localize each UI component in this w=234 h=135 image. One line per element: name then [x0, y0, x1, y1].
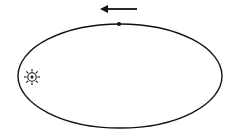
- orbit-diagram: Elliptical orbit of a planet around the …: [0, 0, 234, 135]
- sun-icon: [24, 69, 40, 85]
- direction-arrow-left-icon: [100, 5, 137, 13]
- planet-dot: [117, 22, 121, 26]
- orbit-ellipse: [18, 24, 222, 128]
